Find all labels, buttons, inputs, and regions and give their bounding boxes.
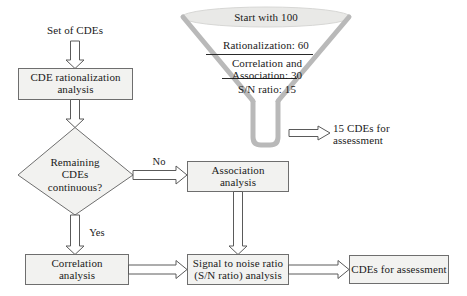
node-rationalization-label: CDE rationalization analysis: [18, 71, 133, 96]
arrow-association-to-snr: [229, 192, 247, 255]
funnel-stage-correlation-association: Correlation and Association: 30: [212, 57, 322, 82]
edge-label-no: No: [144, 156, 174, 168]
arrow-rationalization-to-decision: [66, 100, 84, 128]
start-label: Set of CDEs: [25, 24, 125, 36]
arrow-correlation-to-snr: [129, 261, 188, 279]
funnel-stem: [253, 101, 278, 145]
funnel-output-arrow: [289, 126, 330, 140]
node-snr-label: Signal to noise ratio (S/N ratio) analys…: [188, 257, 288, 282]
funnel-output-label: 15 CDEs for assessment: [333, 122, 443, 147]
flowchart-diagram: Set of CDEs Start with 100 Rationalizati…: [0, 0, 467, 296]
node-association-label: Association analysis: [188, 164, 288, 189]
arrow-start-to-rationalization: [66, 41, 84, 69]
node-decision-label: Remaining CDEs continuous?: [26, 156, 124, 193]
funnel-stage-start: Start with 100: [206, 11, 326, 23]
arrow-snr-to-final: [289, 261, 350, 279]
funnel-stage-rationalization: Rationalization: 60: [203, 39, 329, 51]
node-correlation-label: Correlation analysis: [26, 257, 128, 282]
funnel-stage-snr: S/N ratio: 15: [218, 83, 316, 95]
node-final-label: CDEs for assessment: [350, 263, 448, 275]
arrow-decision-to-association: [133, 166, 187, 184]
edge-label-yes: Yes: [82, 227, 112, 239]
